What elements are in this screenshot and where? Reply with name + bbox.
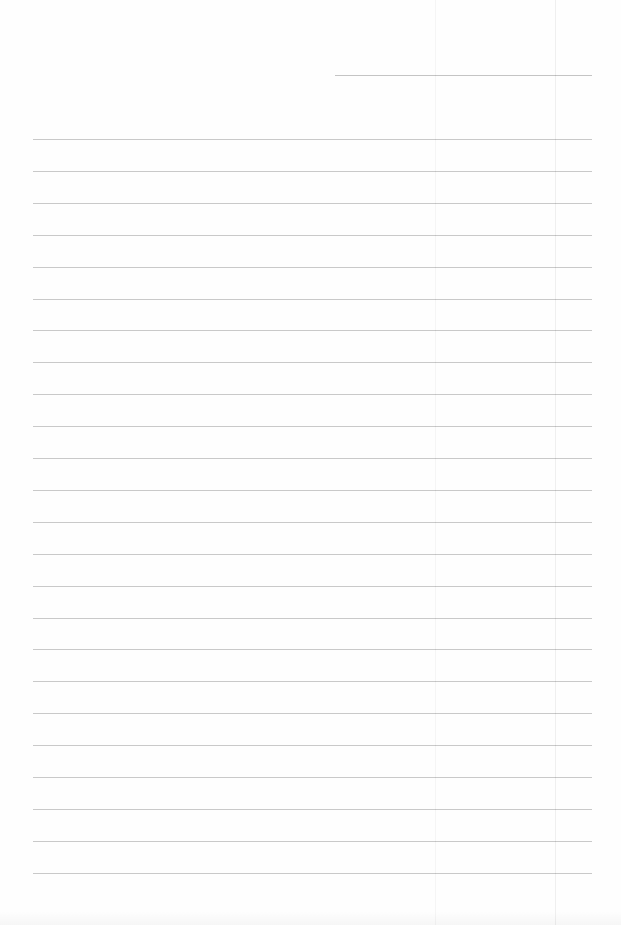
ruled-line [33, 713, 592, 714]
ruled-line [33, 330, 592, 331]
ruled-line [33, 554, 592, 555]
ruled-line [33, 745, 592, 746]
ruled-line [33, 777, 592, 778]
page-edge-shadow [0, 911, 621, 925]
ruled-line [33, 235, 592, 236]
ruled-line [33, 139, 592, 140]
ruled-line [33, 299, 592, 300]
ruled-line [33, 809, 592, 810]
notebook-page [0, 0, 621, 925]
ruled-line [33, 394, 592, 395]
ruled-line [33, 362, 592, 363]
ruled-line [33, 873, 592, 874]
ruled-line [33, 426, 592, 427]
date-line [335, 75, 592, 76]
ruled-line [33, 490, 592, 491]
ruled-line [33, 267, 592, 268]
ruled-line [33, 522, 592, 523]
ruled-line [33, 649, 592, 650]
ruled-line [33, 171, 592, 172]
ruled-line [33, 203, 592, 204]
fold-mark [555, 0, 556, 925]
ruled-line [33, 458, 592, 459]
ruled-line [33, 681, 592, 682]
ruled-line [33, 841, 592, 842]
fold-mark [435, 0, 436, 925]
ruled-line [33, 586, 592, 587]
ruled-line [33, 618, 592, 619]
